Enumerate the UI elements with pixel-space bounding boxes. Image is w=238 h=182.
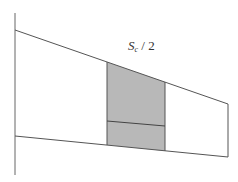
trapezoid-diagram <box>0 0 238 182</box>
label-suffix: / 2 <box>138 38 155 53</box>
diagram-canvas: Sc / 2 <box>0 0 238 182</box>
sc-half-label: Sc / 2 <box>128 38 155 54</box>
shaded-region <box>107 62 165 151</box>
